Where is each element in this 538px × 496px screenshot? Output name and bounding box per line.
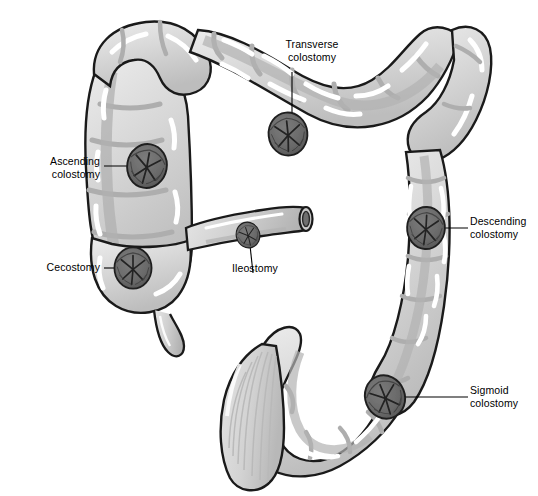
stoma-transverse-colostomy[interactable] — [266, 111, 309, 158]
rectum — [221, 344, 284, 490]
vermiform-appendix — [154, 310, 184, 356]
label-descending-colostomy: Descending colostomy — [470, 215, 538, 240]
colon-illustration — [0, 0, 538, 496]
ileum-lumen — [303, 211, 310, 226]
appendix-body — [154, 310, 184, 356]
sigmoid-taenia-shadow — [292, 352, 370, 450]
label-ascending-colostomy: Ascending colostomy — [8, 155, 100, 180]
colostomy-sites-diagram: Transverse colostomy Ascending colostomy… — [0, 0, 538, 496]
label-cecostomy: Cecostomy — [8, 261, 100, 274]
stoma-cecostomy[interactable] — [114, 247, 151, 288]
label-transverse-colostomy: Transverse colostomy — [257, 38, 367, 63]
label-sigmoid-colostomy: Sigmoid colostomy — [470, 384, 538, 409]
label-ileostomy: Ileostomy — [232, 262, 322, 275]
